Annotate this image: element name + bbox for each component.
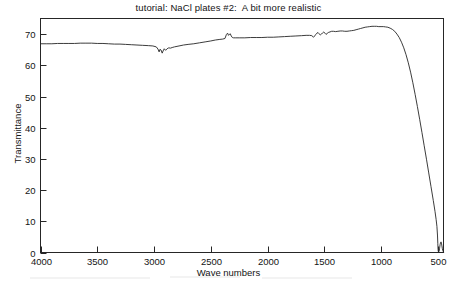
- y-tick-label: 60: [25, 60, 36, 71]
- x-tick-label: 1500: [314, 256, 335, 267]
- y-tick-label: 70: [25, 29, 36, 40]
- y-tick-label: 30: [25, 154, 36, 165]
- x-tick-label: 4000: [31, 256, 52, 267]
- y-tick-label: 50: [25, 92, 36, 103]
- y-tick-label: 40: [25, 123, 36, 134]
- spectrum-plot: 010203040506070 400035003000250020001500…: [0, 0, 457, 283]
- x-tick-label: 3000: [144, 256, 165, 267]
- x-tick-label: 1000: [371, 256, 392, 267]
- y-tick-label: 20: [25, 185, 36, 196]
- scan-artifact: [262, 277, 352, 279]
- x-tick-label: 2500: [201, 256, 222, 267]
- scan-artifact: [30, 277, 150, 279]
- plot-frame: [41, 19, 444, 253]
- plot-frame-rect: [41, 19, 444, 253]
- scan-artifact: [170, 276, 240, 278]
- x-tick-label: 2000: [258, 256, 279, 267]
- y-tick-label: 10: [25, 216, 36, 227]
- x-tick-label: 500: [431, 256, 447, 267]
- chart-figure: tutorial: NaCl plates #2: A bit more rea…: [0, 0, 457, 283]
- x-tick-label: 3500: [87, 256, 108, 267]
